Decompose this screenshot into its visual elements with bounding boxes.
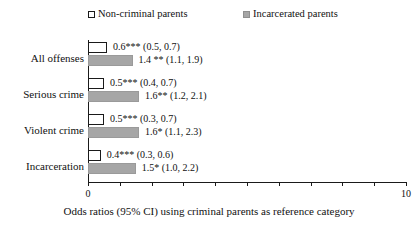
bar-non-criminal: [88, 150, 101, 161]
bar-row: 0.6*** (0.5, 0.7): [88, 42, 406, 53]
x-axis-tick: [311, 182, 312, 186]
bar-row: 0.5*** (0.3, 0.7): [88, 114, 406, 125]
bar-row: 1.4 ** (1.1, 1.9): [88, 55, 406, 66]
legend-item-non-criminal-parents: Non-criminal parents: [88, 8, 188, 20]
bar-row: 0.4*** (0.3, 0.6): [88, 150, 406, 161]
bar-group-serious-crime: 0.5*** (0.4, 0.7) 1.6** (1.2, 2.1): [88, 78, 406, 102]
x-axis-tick: [279, 182, 280, 186]
x-axis-tick: [374, 182, 375, 186]
filled-square-icon: [243, 11, 250, 18]
bar-row: 1.6* (1.1, 2.3): [88, 127, 406, 138]
bar-incarcerated: [88, 163, 136, 174]
bar-group-incarceration: 0.4*** (0.3, 0.6) 1.5* (1.0, 2.2): [88, 150, 406, 174]
x-axis-tick: [120, 182, 121, 186]
x-axis-tick: [152, 182, 153, 186]
bar-row: 1.5* (1.0, 2.2): [88, 163, 406, 174]
bar-row: 0.5*** (0.4, 0.7): [88, 78, 406, 89]
x-axis-caption: Odds ratios (95% CI) using criminal pare…: [0, 205, 418, 218]
bar-value-label: 1.6** (1.2, 2.1): [145, 90, 207, 102]
bar-value-label: 1.4 ** (1.1, 1.9): [139, 54, 203, 66]
odds-ratio-bar-chart: Non-criminal parents Incarcerated parent…: [0, 0, 418, 228]
category-label-serious-crime: Serious crime: [0, 88, 84, 101]
bar-non-criminal: [88, 42, 107, 53]
category-label-violent-crime: Violent crime: [0, 124, 84, 137]
bar-value-label: 1.6* (1.1, 2.3): [145, 126, 202, 138]
bar-value-label: 0.5*** (0.3, 0.7): [110, 113, 177, 125]
category-label-incarceration: Incarceration: [0, 160, 84, 173]
x-axis-tick: [88, 182, 89, 186]
x-axis-label-max: 10: [401, 188, 411, 199]
bar-value-label: 0.4*** (0.3, 0.6): [107, 149, 174, 161]
bar-incarcerated: [88, 127, 139, 138]
bar-incarcerated: [88, 55, 133, 66]
bar-non-criminal: [88, 78, 104, 89]
bar-non-criminal: [88, 114, 104, 125]
plot-area: 0.6*** (0.5, 0.7) 1.4 ** (1.1, 1.9) 0.5*…: [88, 40, 406, 182]
x-axis-tick: [247, 182, 248, 186]
bar-value-label: 0.5*** (0.4, 0.7): [110, 77, 177, 89]
chart-legend: Non-criminal parents Incarcerated parent…: [0, 8, 418, 28]
x-axis-tick: [183, 182, 184, 186]
open-square-icon: [88, 11, 95, 18]
legend-label: Incarcerated parents: [253, 8, 338, 20]
x-axis-label-min: 0: [86, 188, 91, 199]
x-axis-tick: [215, 182, 216, 186]
x-axis-tick: [406, 182, 407, 186]
bar-incarcerated: [88, 91, 139, 102]
legend-item-incarcerated-parents: Incarcerated parents: [243, 8, 338, 20]
bar-row: 1.6** (1.2, 2.1): [88, 91, 406, 102]
legend-label: Non-criminal parents: [98, 8, 188, 20]
x-axis-tick: [342, 182, 343, 186]
category-label-all-offenses: All offenses: [0, 52, 84, 65]
bar-group-all-offenses: 0.6*** (0.5, 0.7) 1.4 ** (1.1, 1.9): [88, 42, 406, 66]
bar-value-label: 0.6*** (0.5, 0.7): [113, 41, 180, 53]
bar-value-label: 1.5* (1.0, 2.2): [142, 162, 199, 174]
bar-group-violent-crime: 0.5*** (0.3, 0.7) 1.6* (1.1, 2.3): [88, 114, 406, 138]
